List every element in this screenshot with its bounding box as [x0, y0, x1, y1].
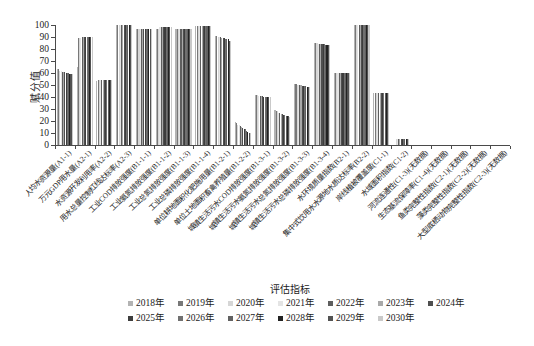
y-tick-label: 40: [23, 92, 49, 102]
bar-chart-figure: 赋分值 0102030405060708090100人均水资源量(A1-1)万元…: [0, 0, 534, 346]
legend-item: 2020年: [228, 298, 265, 309]
bar: [329, 45, 330, 145]
y-tick-label: 70: [23, 56, 49, 66]
y-tick-label: 10: [23, 128, 49, 138]
x-tick: [154, 146, 155, 149]
x-tick: [451, 146, 452, 149]
legend-item: 2029年: [328, 313, 365, 324]
x-tick: [352, 146, 353, 149]
legend-year-label: 2024年: [436, 298, 465, 309]
x-tick: [411, 146, 412, 149]
bar: [309, 87, 310, 145]
legend-marker-swatch: [278, 316, 283, 321]
legend-year-label: 2026年: [186, 313, 215, 324]
x-tick: [391, 146, 392, 149]
x-tick: [233, 146, 234, 149]
legend-year-label: 2019年: [186, 298, 215, 309]
legend-year-label: 2021年: [286, 298, 315, 309]
legend-marker-swatch: [378, 301, 383, 306]
legend-year-label: 2023年: [386, 298, 415, 309]
y-tick-label: 90: [23, 32, 49, 42]
x-tick: [75, 146, 76, 149]
y-tick-label: 20: [23, 116, 49, 126]
bar: [111, 80, 112, 145]
bar: [289, 117, 290, 145]
y-tick: [51, 133, 55, 134]
bar: [190, 29, 191, 145]
y-tick-label: 50: [23, 80, 49, 90]
legend-year-label: 2018年: [136, 298, 165, 309]
legend-item: 2023年: [378, 298, 415, 309]
legend-title: 评估指标: [60, 281, 520, 296]
legend-year-label: 2025年: [136, 313, 165, 324]
bar: [131, 25, 132, 145]
bar: [151, 29, 152, 145]
y-tick: [51, 73, 55, 74]
legend-marker-swatch: [428, 301, 433, 306]
legend-year-label: 2022年: [336, 298, 365, 309]
legend-year-label: 2029年: [336, 313, 365, 324]
legend-year-label: 2030年: [386, 313, 415, 324]
y-tick-label: 30: [23, 104, 49, 114]
legend-marker-swatch: [178, 316, 183, 321]
legend-year-label: 2027年: [236, 313, 265, 324]
bar: [388, 93, 389, 145]
bar: [92, 37, 93, 145]
y-tick: [51, 109, 55, 110]
legend-marker-swatch: [378, 316, 383, 321]
x-tick: [312, 146, 313, 149]
legend-marker-swatch: [228, 316, 233, 321]
x-tick: [372, 146, 373, 149]
legend-item: 2022年: [328, 298, 365, 309]
y-tick: [51, 37, 55, 38]
y-tick: [51, 121, 55, 122]
x-tick: [134, 146, 135, 149]
x-tick: [510, 146, 511, 149]
bar: [72, 74, 73, 145]
x-tick: [55, 146, 56, 149]
x-tick: [95, 146, 96, 149]
legend-item: 2027年: [228, 313, 265, 324]
legend-item: 2026年: [178, 313, 215, 324]
legend-item: 2024年: [428, 298, 465, 309]
x-tick: [490, 146, 491, 149]
legend-marker-swatch: [128, 301, 133, 306]
legend-item: 2028年: [278, 313, 315, 324]
bar: [230, 41, 231, 145]
y-tick: [51, 61, 55, 62]
x-tick: [174, 146, 175, 149]
legend-marker-swatch: [178, 301, 183, 306]
legend-row-2: 2025年2026年2027年2028年2029年2030年: [128, 313, 428, 324]
legend-year-label: 2028年: [286, 313, 315, 324]
x-tick: [253, 146, 254, 149]
legend-marker-swatch: [228, 301, 233, 306]
legend-year-label: 2020年: [236, 298, 265, 309]
x-tick: [213, 146, 214, 149]
x-tick: [470, 146, 471, 149]
legend-marker-swatch: [128, 316, 133, 321]
x-tick: [332, 146, 333, 149]
bar: [368, 25, 369, 145]
x-tick: [273, 146, 274, 149]
legend-item: 2021年: [278, 298, 315, 309]
bar: [349, 73, 350, 145]
y-tick-label: 0: [23, 140, 49, 150]
y-tick-label: 60: [23, 68, 49, 78]
legend-marker-swatch: [328, 301, 333, 306]
bar: [171, 27, 172, 145]
y-tick: [51, 25, 55, 26]
y-tick: [51, 85, 55, 86]
y-tick-label: 80: [23, 44, 49, 54]
y-tick: [51, 97, 55, 98]
y-tick-label: 100: [23, 20, 49, 30]
legend-item: 2019年: [178, 298, 215, 309]
legend-item: 2030年: [378, 313, 415, 324]
legend-item: 2025年: [128, 313, 165, 324]
x-tick: [431, 146, 432, 149]
legend-item: 2018年: [128, 298, 165, 309]
bar: [210, 26, 211, 145]
x-axis: [55, 145, 510, 146]
bar: [250, 133, 251, 145]
bar: [408, 139, 409, 145]
x-tick: [292, 146, 293, 149]
